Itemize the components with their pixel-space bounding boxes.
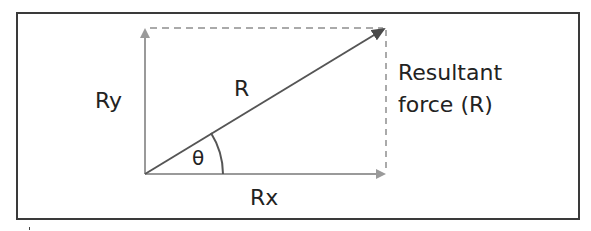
resultant-vector-arrow bbox=[145, 29, 384, 174]
stray-mark bbox=[29, 227, 30, 230]
label-resultant: R bbox=[234, 78, 249, 100]
angle-arc bbox=[211, 133, 223, 174]
label-ry: Ry bbox=[95, 90, 122, 112]
label-rx: Rx bbox=[250, 187, 278, 209]
vector-diagram bbox=[0, 0, 591, 231]
label-angle-theta: θ bbox=[192, 148, 204, 168]
resultant-caption-line1: Resultant bbox=[398, 62, 502, 84]
resultant-caption-line2: force (R) bbox=[398, 94, 493, 116]
